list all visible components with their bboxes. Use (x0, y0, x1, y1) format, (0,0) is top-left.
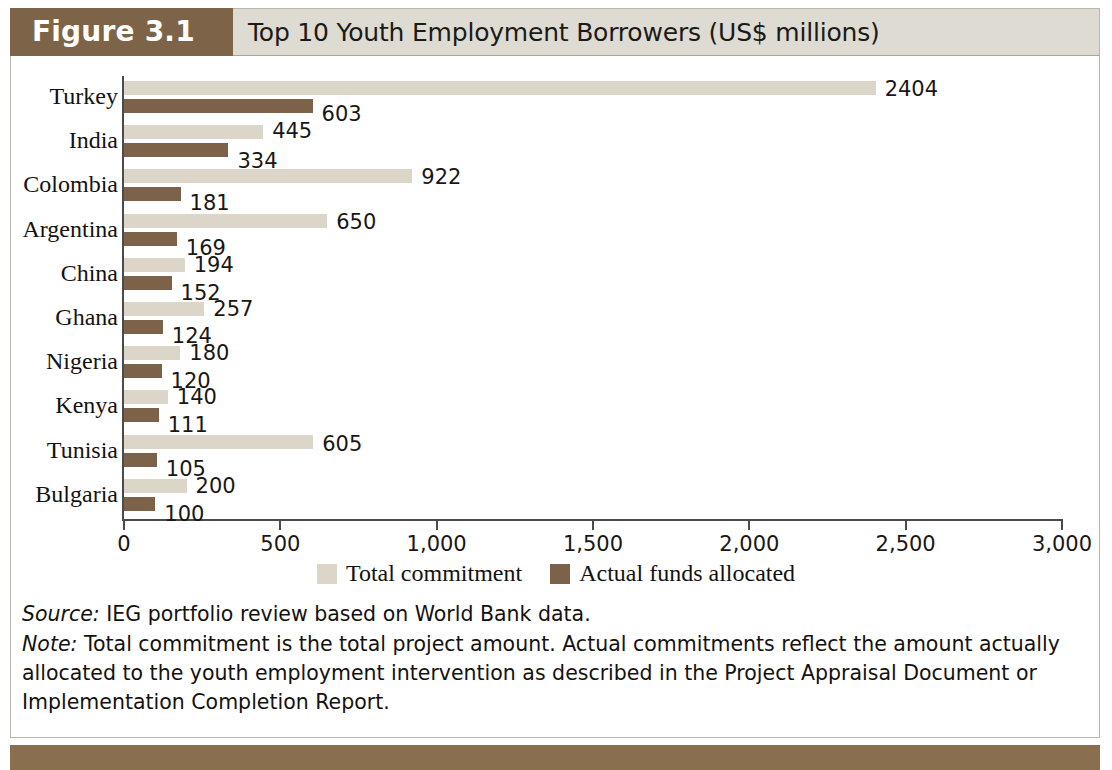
x-axis-tick (279, 521, 281, 530)
x-axis-tick (123, 521, 125, 530)
legend-item: Actual funds allocated (550, 560, 795, 587)
country-label: Nigeria (0, 348, 118, 375)
bar-total-commitment (124, 125, 263, 139)
country-label: India (0, 127, 118, 154)
figure-footer-band (10, 745, 1100, 770)
figure-container: Figure 3.1 Top 10 Youth Employment Borro… (0, 0, 1112, 770)
x-axis-tick-label: 500 (260, 532, 300, 556)
bar-value-actual: 100 (164, 502, 204, 526)
legend-swatch-total-commitment (317, 564, 337, 584)
x-axis-tick (592, 521, 594, 530)
chart-row: India445334 (0, 122, 1112, 166)
bar-actual-allocated (124, 497, 155, 511)
bar-total-commitment (124, 258, 185, 272)
x-axis-tick (436, 521, 438, 530)
bar-actual-allocated (124, 364, 162, 378)
bar-total-commitment (124, 302, 204, 316)
chart-row: Colombia922181 (0, 166, 1112, 210)
country-label: Kenya (0, 392, 118, 419)
bar-value-total: 922 (421, 165, 461, 189)
bar-value-total: 650 (336, 210, 376, 234)
x-axis-tick-label: 3,000 (1032, 532, 1092, 556)
source-text: IEG portfolio review based on World Bank… (100, 602, 591, 626)
legend-label: Total commitment (346, 560, 522, 587)
figure-notes: Source: IEG portfolio review based on Wo… (22, 600, 1086, 717)
source-label: Source: (22, 602, 100, 626)
bar-total-commitment (124, 435, 313, 449)
bar-actual-allocated (124, 453, 157, 467)
country-label: Bulgaria (0, 481, 118, 508)
note-line: Note: Total commitment is the total proj… (22, 630, 1086, 717)
x-axis-tick (748, 521, 750, 530)
legend-item: Total commitment (317, 560, 522, 587)
chart-row: Tunisia605105 (0, 432, 1112, 476)
country-label: China (0, 260, 118, 287)
country-label: Ghana (0, 304, 118, 331)
bar-value-total: 257 (213, 297, 253, 321)
chart-row: Kenya140111 (0, 387, 1112, 431)
bar-value-total: 2404 (885, 77, 938, 101)
country-label: Argentina (0, 216, 118, 243)
source-line: Source: IEG portfolio review based on Wo… (22, 600, 1086, 629)
bar-value-total: 180 (189, 341, 229, 365)
x-axis-tick-label: 1,000 (407, 532, 467, 556)
legend-swatch-actual-allocated (550, 564, 570, 584)
bar-total-commitment (124, 169, 412, 183)
bar-actual-allocated (124, 99, 313, 113)
x-axis-tick-label: 1,500 (563, 532, 623, 556)
bar-total-commitment (124, 346, 180, 360)
chart-row: Turkey2404603 (0, 78, 1112, 122)
x-axis-tick-label: 2,000 (719, 532, 779, 556)
bar-value-total: 140 (177, 385, 217, 409)
note-label: Note: (22, 632, 77, 656)
country-label: Turkey (0, 83, 118, 110)
x-axis-tick (905, 521, 907, 530)
bar-actual-allocated (124, 276, 172, 290)
legend-label: Actual funds allocated (579, 560, 795, 587)
bar-value-total: 605 (322, 432, 362, 456)
country-label: Tunisia (0, 437, 118, 464)
bar-total-commitment (124, 81, 876, 95)
bar-value-total: 200 (196, 474, 236, 498)
bar-total-commitment (124, 390, 168, 404)
country-label: Colombia (0, 171, 118, 198)
x-axis-tick-label: 2,500 (876, 532, 936, 556)
chart-row: Bulgaria200100 (0, 476, 1112, 520)
bar-value-total: 445 (272, 119, 312, 143)
bar-actual-allocated (124, 187, 181, 201)
bar-total-commitment (124, 214, 327, 228)
chart-legend: Total commitmentActual funds allocated (0, 560, 1112, 587)
x-axis-tick (1061, 521, 1063, 530)
note-text: Total commitment is the total project am… (22, 632, 1060, 714)
chart-row: Argentina650169 (0, 211, 1112, 255)
bar-actual-allocated (124, 408, 159, 422)
bar-actual-allocated (124, 143, 228, 157)
chart-row: China194152 (0, 255, 1112, 299)
chart-row: Nigeria180120 (0, 343, 1112, 387)
bar-value-total: 194 (194, 253, 234, 277)
bar-actual-allocated (124, 320, 163, 334)
bar-actual-allocated (124, 232, 177, 246)
bar-total-commitment (124, 479, 187, 493)
chart-row: Ghana257124 (0, 299, 1112, 343)
x-axis-tick-label: 0 (117, 532, 130, 556)
